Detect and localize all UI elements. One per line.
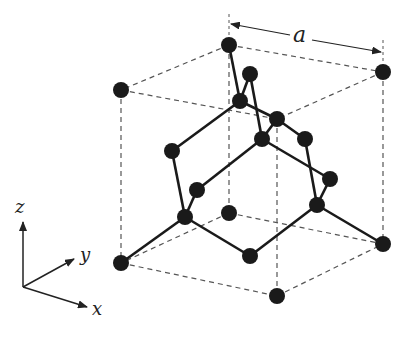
cube-edge [121, 263, 277, 296]
lattice-constant-label: a [293, 22, 306, 47]
cube-edge [121, 45, 229, 90]
bond [229, 45, 240, 101]
atom-in_1 [232, 93, 248, 109]
bond [185, 217, 250, 256]
atom-c_bot_back_left [221, 205, 237, 221]
atom-in_2 [254, 131, 270, 147]
atoms [113, 37, 391, 304]
atom-in_4 [177, 209, 193, 225]
bond [250, 205, 317, 256]
atom-c_bot_front_left [113, 255, 129, 271]
atom-c_bot_back_right [375, 236, 391, 252]
y-axis-arrow-icon [23, 259, 74, 287]
diamond-lattice-diagram: a z y x [0, 0, 408, 342]
cube-edge [277, 72, 383, 119]
atom-fc_left [164, 143, 180, 159]
atom-c_top_front_left [113, 82, 129, 98]
atom-c_top_back_left [221, 37, 237, 53]
bond [121, 217, 185, 263]
cube-edge [277, 244, 383, 296]
atom-fc_right_upper [297, 131, 313, 147]
cube-edge [121, 213, 229, 263]
bond [262, 139, 330, 179]
atom-in_3 [189, 182, 205, 198]
atom-in_5 [309, 197, 325, 213]
atom-c_top_back_right [375, 64, 391, 80]
x-axis-arrow-icon [23, 287, 87, 307]
bond [172, 151, 185, 217]
bond [172, 101, 240, 151]
y-axis-label: y [80, 244, 90, 265]
atom-c_top_front_right [269, 111, 285, 127]
z-axis-label: z [15, 196, 24, 217]
lattice-canvas [0, 0, 408, 342]
atom-fc_right [322, 171, 338, 187]
atom-fc_bottom [242, 248, 258, 264]
bond [305, 139, 317, 205]
bond [317, 205, 383, 244]
cube-edge [229, 213, 383, 244]
coordinate-axes [23, 222, 87, 307]
atom-fc_top [242, 66, 258, 82]
atom-c_bot_front_right [269, 288, 285, 304]
x-axis-label: x [92, 298, 102, 319]
